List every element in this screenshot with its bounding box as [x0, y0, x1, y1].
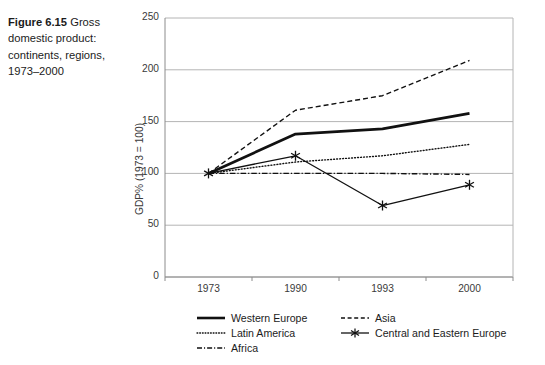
x-axis-tick-label: 1973: [179, 283, 239, 294]
legend-swatch-central-and-eastern-europe: [340, 327, 370, 339]
legend-swatch-latin-america: [196, 327, 226, 339]
series-marker: [378, 201, 387, 211]
legend-item-central-and-eastern-europe[interactable]: Central and Eastern Europe: [340, 327, 526, 339]
y-axis-tick-label: 0: [119, 270, 159, 281]
y-axis-tick-label: 250: [119, 11, 159, 22]
legend-swatch-western-europe: [196, 312, 226, 324]
x-axis-tick-label: 2000: [440, 283, 500, 294]
y-axis-tick-label: 50: [119, 218, 159, 229]
legend-label-central-and-eastern-europe: Central and Eastern Europe: [375, 327, 506, 339]
legend-item-africa[interactable]: Africa: [196, 342, 332, 354]
legend-item-latin-america[interactable]: Latin America: [196, 327, 332, 339]
series-line: [209, 144, 470, 173]
y-axis-tick-label: 200: [119, 63, 159, 74]
legend-item-asia[interactable]: Asia: [340, 312, 526, 324]
x-axis-tick-label: 1990: [266, 283, 326, 294]
chart-legend: Western Europe Asia Latin America: [196, 310, 526, 355]
y-axis-title: GDP% (1973 = 100): [134, 123, 145, 215]
legend-swatch-asia: [340, 312, 370, 324]
x-axis-tick-label: 1993: [353, 283, 413, 294]
chart-plot-area: 0501001502002501973199019932000GDP% (197…: [0, 0, 545, 300]
legend-label-western-europe: Western Europe: [231, 312, 307, 324]
legend-label-asia: Asia: [375, 312, 396, 324]
series-line: [209, 113, 470, 173]
legend-label-africa: Africa: [231, 342, 258, 354]
figure-gdp-continents: Figure 6.15 Gross domestic product: cont…: [0, 0, 545, 365]
chart-svg: [0, 0, 545, 300]
legend-label-latin-america: Latin America: [231, 327, 295, 339]
series-line: [209, 156, 470, 206]
legend-swatch-africa: [196, 342, 226, 354]
legend-item-western-europe[interactable]: Western Europe: [196, 312, 332, 324]
series-marker: [465, 180, 474, 190]
